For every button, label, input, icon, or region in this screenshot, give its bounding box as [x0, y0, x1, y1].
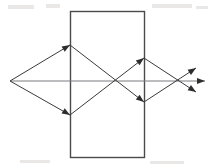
arrowhead-upper-left-face-icon [62, 45, 70, 52]
upper-internal-ray [70, 45, 144, 102]
arrowhead-lower-left-face-icon [62, 108, 70, 115]
arrowhead-upper-right-face-icon [136, 58, 144, 65]
arrowhead-exit-straight-icon [197, 78, 205, 84]
lower-incoming-ray [10, 81, 70, 115]
arrowhead-exit-up-icon [188, 68, 196, 75]
arrowhead-lower-right-face-icon [136, 95, 144, 102]
lower-internal-ray [70, 58, 144, 115]
arrowhead-exit-down-icon [188, 85, 196, 92]
block-rectangle [71, 12, 145, 158]
ray-diagram-figure: Optical ray diagram through a rectangula… [0, 0, 215, 167]
lower-exit-ray [144, 68, 196, 102]
upper-exit-ray [144, 58, 196, 92]
ray-diagram-canvas: Optical ray diagram through a rectangula… [0, 0, 215, 167]
upper-incoming-ray [10, 45, 70, 81]
